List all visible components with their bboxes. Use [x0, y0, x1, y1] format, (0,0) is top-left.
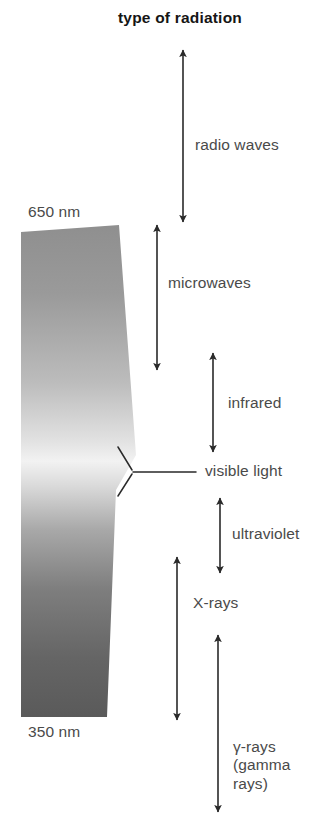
band-label-radio-waves: radio waves: [195, 136, 279, 154]
wavelength-label-top: 650 nm: [28, 203, 80, 221]
band-label-infrared: infrared: [228, 394, 281, 412]
spectrum-band: [21, 225, 136, 717]
radiation-spectrum-figure: type of radiation 650 nm 350 nm radio wa…: [0, 0, 336, 831]
spectrum-diagram-canvas: [0, 0, 336, 831]
band-label-ultraviolet: ultraviolet: [232, 525, 299, 543]
band-label-x-rays: X-rays: [193, 594, 238, 612]
wavelength-label-bottom: 350 nm: [28, 723, 80, 741]
band-label-gamma-rays: γ-rays (gamma rays): [233, 738, 290, 793]
band-label-visible-light: visible light: [205, 462, 282, 480]
figure-title: type of radiation: [118, 9, 242, 27]
band-label-microwaves: microwaves: [168, 274, 251, 292]
